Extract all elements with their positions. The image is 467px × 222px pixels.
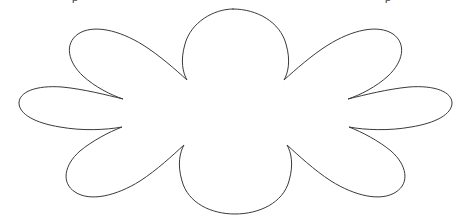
- scalloped-flower-outline-path: [19, 9, 452, 214]
- scalloped-shape-svg: [0, 0, 467, 222]
- drawing-canvas: p p: [0, 0, 467, 222]
